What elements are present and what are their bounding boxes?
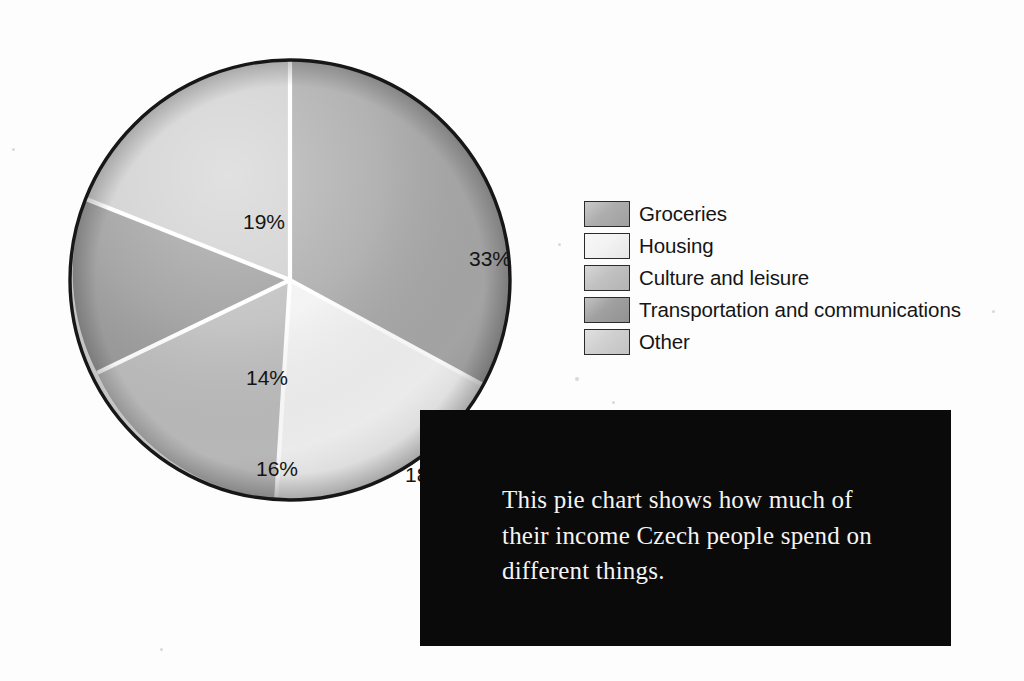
legend-swatch-transportation-and-communications <box>584 297 630 323</box>
legend-label-other: Other <box>639 330 690 354</box>
scan-speck <box>558 243 561 246</box>
chart-legend: Groceries Housing Culture and leisure Tr… <box>584 198 1004 358</box>
legend-item-other[interactable]: Other <box>584 326 1004 358</box>
caption-text: This pie chart shows how much of their i… <box>502 482 902 589</box>
legend-item-culture-and-leisure[interactable]: Culture and leisure <box>584 262 1004 294</box>
legend-swatch-other <box>584 329 630 355</box>
legend-label-culture-and-leisure: Culture and leisure <box>639 266 809 290</box>
page-canvas: 14% 33% 18% 16% 19% Groceries Housing Cu… <box>0 0 1024 681</box>
pie-label-groceries: 33% <box>469 247 511 270</box>
scan-speck <box>160 648 163 651</box>
caption-box: This pie chart shows how much of their i… <box>420 410 951 646</box>
scan-speck <box>12 148 15 151</box>
scan-speck <box>612 401 615 404</box>
legend-swatch-culture-and-leisure <box>584 265 630 291</box>
pie-label-culture-and-leisure: 16% <box>256 457 298 480</box>
pie-label-transportation-and-communications: 14% <box>246 366 288 389</box>
legend-label-housing: Housing <box>639 234 714 258</box>
legend-label-transportation-and-communications: Transportation and communications <box>639 298 961 322</box>
legend-swatch-housing <box>584 233 630 259</box>
legend-item-groceries[interactable]: Groceries <box>584 198 1004 230</box>
legend-swatch-groceries <box>584 201 630 227</box>
pie-label-other: 19% <box>243 210 285 233</box>
legend-item-transportation-and-communications[interactable]: Transportation and communications <box>584 294 1004 326</box>
legend-label-groceries: Groceries <box>639 202 727 226</box>
legend-item-housing[interactable]: Housing <box>584 230 1004 262</box>
scan-speck <box>575 377 579 381</box>
